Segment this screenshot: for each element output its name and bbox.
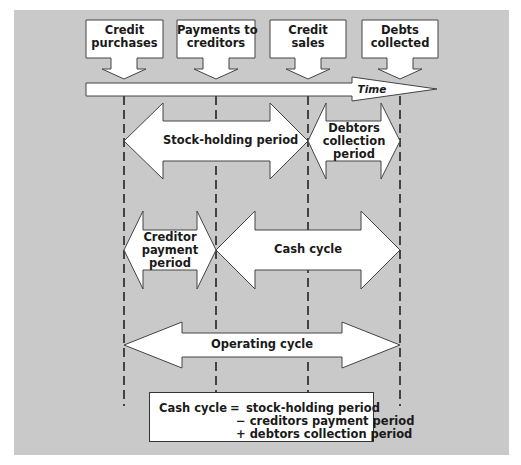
creditor-payment-label: Creditor payment period (131, 231, 209, 270)
event-label-line2: sales (270, 37, 346, 50)
event-label-line2: collected (362, 37, 438, 50)
creditor-line3: period (131, 257, 209, 270)
event-label-credit-sales: Credit sales (270, 24, 346, 50)
debtors-collection-label: Debtors collection period (315, 122, 393, 161)
formula-term-creditors: − creditors payment period (236, 414, 414, 428)
event-label-payments-to-creditors: Payments to creditors (177, 24, 255, 50)
event-label-credit-purchases: Credit purchases (86, 24, 163, 50)
event-label-line2: creditors (177, 37, 255, 50)
formula-term-debtors: + debtors collection period (236, 427, 412, 441)
time-label: Time (352, 83, 392, 96)
event-label-line2: purchases (86, 37, 163, 50)
event-label-debts-collected: Debts collected (362, 24, 438, 50)
debtors-line3: period (315, 148, 393, 161)
formula-equals: = (230, 401, 240, 415)
cash-cycle-formula-box: Cash cycle = stock-holding period − cred… (149, 392, 374, 442)
stock-holding-label: Stock-holding period (163, 134, 270, 147)
formula-lhs: Cash cycle (159, 401, 227, 415)
operating-cycle-label: Operating cycle (182, 338, 342, 351)
cash-cycle-label: Cash cycle (255, 243, 361, 256)
formula-term-stock-holding: stock-holding period (246, 401, 380, 415)
